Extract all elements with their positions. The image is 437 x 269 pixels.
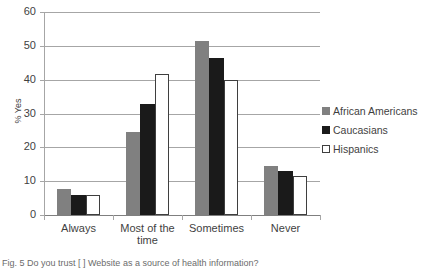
y-axis-line [44,12,45,216]
y-axis-tick-label: 60 [10,6,36,17]
bar [155,74,169,215]
y-axis-tick [40,12,44,13]
bar [264,166,278,215]
figure-caption: Fig. 5 Do you trust [ ] Website as a sou… [2,258,435,269]
gridline [44,114,320,115]
legend-swatch-icon [322,126,330,134]
y-axis-tick [40,181,44,182]
bar [140,104,154,215]
legend-item-label: African Americans [333,105,418,117]
bar [195,41,209,215]
bar [278,171,292,215]
x-axis-tick [44,215,45,220]
x-axis-category-label: Always [44,222,113,234]
gridline [44,12,320,13]
y-axis-tick [40,80,44,81]
y-axis-tick-label: 40 [10,74,36,85]
bar [71,195,85,215]
legend-item[interactable]: Caucasians [322,120,437,139]
x-axis-tick [251,215,252,220]
x-axis-category-label: Most of thetime [113,222,182,246]
gridline [44,46,320,47]
y-axis-tick [40,114,44,115]
y-axis-tick-label: 10 [10,175,36,186]
legend-item[interactable]: African Americans [322,101,437,120]
gridline [44,147,320,148]
category-label-line: Never [251,222,320,234]
legend-swatch-icon [322,107,330,115]
x-axis-tick [113,215,114,220]
bar [86,195,100,215]
x-axis-tick [320,215,321,220]
legend-swatch-icon [322,145,330,153]
gridline [44,80,320,81]
legend-item[interactable]: Hispanics [322,139,437,158]
bar [293,176,307,215]
legend-item-label: Caucasians [333,124,388,136]
category-label-line: Always [44,222,113,234]
category-label-line: time [113,234,182,246]
y-axis-tick-label: 0 [10,209,36,220]
y-axis-tick-label: 50 [10,40,36,51]
plot-area [44,12,320,215]
x-axis-tick [182,215,183,220]
y-axis-tick-label: 30 [10,108,36,119]
bar [57,189,71,215]
bar [224,80,238,215]
x-axis-category-label: Never [251,222,320,234]
y-axis-tick [40,147,44,148]
chart-legend: African AmericansCaucasiansHispanics [322,101,437,158]
bar [209,58,223,215]
legend-item-label: Hispanics [333,143,379,155]
y-axis-tick-label: 20 [10,141,36,152]
category-label-line: Sometimes [182,222,251,234]
bar [126,132,140,215]
x-axis-category-label: Sometimes [182,222,251,234]
category-label-line: Most of the [113,222,182,234]
y-axis-tick [40,46,44,47]
